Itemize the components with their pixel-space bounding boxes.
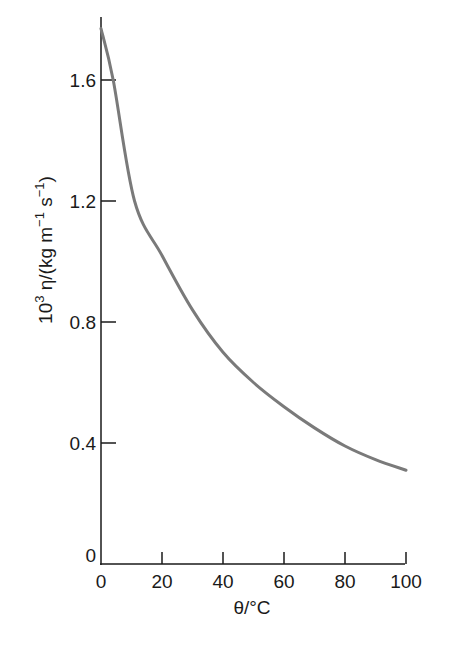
x-tick-label: 0 bbox=[96, 571, 107, 592]
y-tick-label: 1.6 bbox=[70, 70, 96, 91]
chart: 00.40.81.21.6 020406080100 θ/°C 103 η/(k… bbox=[0, 0, 449, 651]
y-axis-title: 103 η/(kg m−1 s−1) bbox=[32, 176, 56, 324]
y-ticks: 00.40.81.21.6 bbox=[70, 70, 116, 566]
viscosity-curve bbox=[101, 29, 406, 471]
y-tick-label: 0 bbox=[85, 545, 96, 566]
y-tick-label: 1.2 bbox=[70, 191, 96, 212]
x-tick-label: 20 bbox=[151, 571, 172, 592]
x-ticks: 020406080100 bbox=[96, 552, 422, 592]
axes bbox=[100, 17, 405, 565]
y-tick-label: 0.8 bbox=[70, 312, 96, 333]
x-tick-label: 100 bbox=[390, 571, 422, 592]
x-tick-label: 40 bbox=[212, 571, 233, 592]
x-axis-title: θ/°C bbox=[233, 597, 270, 618]
y-tick-label: 0.4 bbox=[70, 433, 97, 454]
x-tick-label: 60 bbox=[273, 571, 294, 592]
x-tick-label: 80 bbox=[334, 571, 355, 592]
